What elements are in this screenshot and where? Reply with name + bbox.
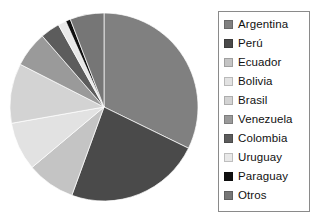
legend-item-per[interactable]: Perú: [224, 34, 309, 53]
pie-svg: [9, 12, 199, 202]
legend-swatch-icon: [224, 153, 233, 162]
legend-swatch-icon: [224, 20, 233, 29]
legend-swatch-icon: [224, 77, 233, 86]
legend-item-argentina[interactable]: Argentina: [224, 15, 309, 34]
legend-item-brasil[interactable]: Brasil: [224, 91, 309, 110]
legend-item-ecuador[interactable]: Ecuador: [224, 53, 309, 72]
pie-slice-group: [10, 13, 198, 201]
legend-item-label: Venezuela: [238, 110, 293, 129]
legend-item-label: Bolivia: [238, 72, 273, 91]
legend-item-label: Argentina: [238, 15, 288, 34]
pie-chart-figure: ArgentinaPerúEcuadorBoliviaBrasilVenezue…: [0, 0, 315, 223]
chart-legend: ArgentinaPerúEcuadorBoliviaBrasilVenezue…: [218, 11, 310, 212]
legend-item-venezuela[interactable]: Venezuela: [224, 110, 309, 129]
legend-item-bolivia[interactable]: Bolivia: [224, 72, 309, 91]
legend-item-label: Paraguay: [238, 167, 288, 186]
pie-chart-plot-area: [9, 12, 199, 202]
legend-item-label: Otros: [238, 186, 267, 205]
legend-item-label: Brasil: [238, 91, 267, 110]
legend-item-colombia[interactable]: Colombia: [224, 129, 309, 148]
legend-swatch-icon: [224, 39, 233, 48]
legend-swatch-icon: [224, 191, 233, 200]
legend-swatch-icon: [224, 58, 233, 67]
legend-item-uruguay[interactable]: Uruguay: [224, 148, 309, 167]
legend-swatch-icon: [224, 96, 233, 105]
legend-swatch-icon: [224, 115, 233, 124]
legend-item-label: Colombia: [238, 129, 287, 148]
legend-item-label: Ecuador: [238, 53, 282, 72]
legend-item-label: Uruguay: [238, 148, 282, 167]
legend-swatch-icon: [224, 172, 233, 181]
legend-item-otros[interactable]: Otros: [224, 186, 309, 205]
legend-item-paraguay[interactable]: Paraguay: [224, 167, 309, 186]
legend-item-label: Perú: [238, 34, 263, 53]
legend-swatch-icon: [224, 134, 233, 143]
